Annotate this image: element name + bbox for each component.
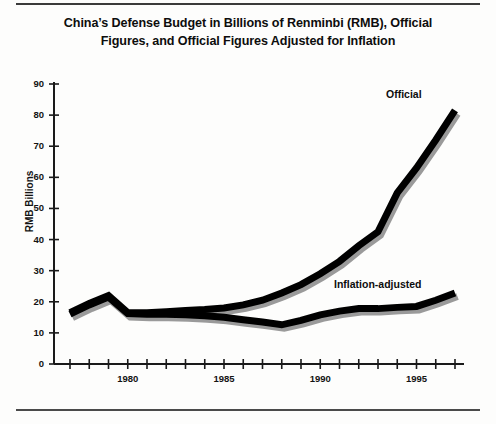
y-axis-tick-label: 80 xyxy=(18,109,44,120)
y-axis-tick-label: 20 xyxy=(18,296,44,307)
y-axis-tick-label: 50 xyxy=(18,202,44,213)
x-axis-tick-label: 1980 xyxy=(108,373,148,384)
x-axis-tick-label: 1995 xyxy=(397,373,437,384)
y-axis-tick-label: 30 xyxy=(18,265,44,276)
y-axis-tick-label: 0 xyxy=(18,358,44,369)
y-axis-tick-label: 40 xyxy=(18,234,44,245)
x-axis-tick-label: 1990 xyxy=(300,373,340,384)
figure-page: China’s Defense Budget in Billions of Re… xyxy=(0,0,496,424)
line-chart: RMB Billions 0102030405060708090 1980198… xyxy=(0,0,496,424)
series-label-inflation: Inflation-adjusted xyxy=(334,278,422,290)
y-axis-tick-label: 90 xyxy=(18,78,44,89)
y-axis-tick-label: 10 xyxy=(18,327,44,338)
chart-canvas xyxy=(0,0,496,424)
y-axis-tick-label: 60 xyxy=(18,171,44,182)
chart-series xyxy=(70,110,458,328)
x-axis-tick-label: 1985 xyxy=(204,373,244,384)
series-label-official: Official xyxy=(386,88,422,100)
y-axis-tick-label: 70 xyxy=(18,140,44,151)
